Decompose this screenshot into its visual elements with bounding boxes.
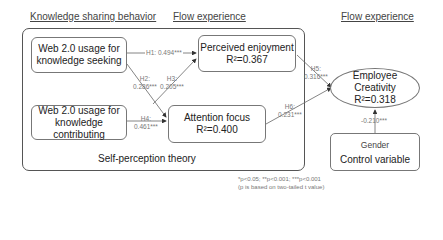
node-knowledge-seeking: Web 2.0 usage for knowledge seeking xyxy=(31,37,127,73)
path-label-h4: H4: 0.461*** xyxy=(134,115,158,131)
node-knowledge-contributing-line1: Web 2.0 usage for xyxy=(38,105,120,117)
path-label-h5-value: 0.316*** xyxy=(304,73,328,81)
node-perceived-enjoyment-r2: R²=0.367 xyxy=(226,54,267,66)
path-label-h2-value: 0.286*** xyxy=(133,83,157,91)
path-label-h3-value: 0.205*** xyxy=(160,83,184,91)
significance-note-line1: *p<0.05; **p<0.001; ***p<0.001 xyxy=(238,175,321,183)
node-attention-focus: Attention focus R²=0.400 xyxy=(168,105,266,143)
node-control-variable-label: Control variable xyxy=(340,154,410,166)
path-label-gender: -0.210*** xyxy=(361,117,387,125)
node-gender-label: Gender xyxy=(361,139,389,151)
node-employee-creativity: Employee Creativity R²=0.318 xyxy=(330,68,420,108)
node-knowledge-contributing-line2: knowledge contributing xyxy=(32,117,126,141)
path-label-h3-name: H3: xyxy=(160,75,184,83)
path-label-h4-name: H4: xyxy=(134,115,158,123)
node-knowledge-contributing: Web 2.0 usage for knowledge contributing xyxy=(31,105,127,140)
node-perceived-enjoyment: Perceived enjoyment R²=0.367 xyxy=(198,35,296,72)
path-label-h3: H3: 0.205*** xyxy=(160,75,184,91)
node-gender-control: Gender Control variable xyxy=(330,133,420,171)
path-label-h1: H1: 0.494*** xyxy=(145,49,183,57)
node-employee-creativity-r2: R²=0.318 xyxy=(354,94,395,106)
path-label-h2-name: H2: xyxy=(133,75,157,83)
path-label-h5: H5: 0.316*** xyxy=(304,65,328,81)
path-label-h2: H2: 0.286*** xyxy=(133,75,157,91)
node-knowledge-seeking-line2: knowledge seeking xyxy=(36,55,121,67)
node-knowledge-seeking-line1: Web 2.0 usage for xyxy=(38,43,120,55)
node-attention-focus-r2: R²=0.400 xyxy=(196,124,237,136)
path-label-h4-value: 0.461*** xyxy=(134,123,158,131)
node-employee-creativity-line1: Employee Creativity xyxy=(331,70,419,94)
path-label-h6: H6: 0.231*** xyxy=(278,103,302,119)
path-label-h6-name: H6: xyxy=(278,103,302,111)
significance-note-line2: (p is based on two-tailed t value) xyxy=(238,183,324,191)
path-label-h5-name: H5: xyxy=(304,65,328,73)
path-label-h6-value: 0.231*** xyxy=(278,111,302,119)
node-perceived-enjoyment-line1: Perceived enjoyment xyxy=(200,42,293,54)
node-attention-focus-line1: Attention focus xyxy=(184,112,250,124)
self-perception-theory-label: Self-perception theory xyxy=(98,153,196,164)
